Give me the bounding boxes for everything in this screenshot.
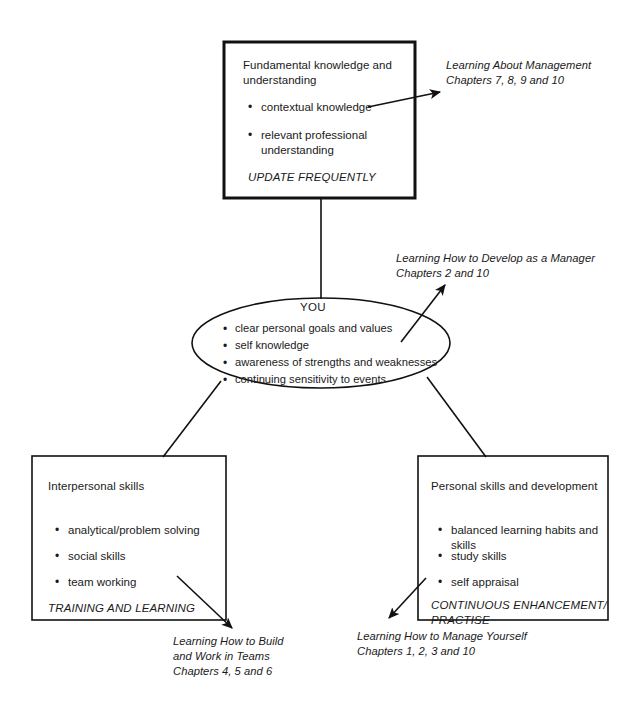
bullet-dot-icon: •	[223, 355, 235, 372]
fundamental-bullet-2: • relevant professional understanding	[248, 128, 413, 158]
interpersonal-bullet-2-text: social skills	[68, 549, 126, 564]
bullet-dot-icon: •	[223, 338, 235, 355]
connector-you-to-interpersonal	[163, 381, 221, 457]
you-bullet-list: • clear personal goals and values • self…	[223, 321, 437, 389]
diagram-canvas: Fundamental knowledge and understanding …	[0, 0, 641, 701]
you-bullet-1: • clear personal goals and values	[223, 321, 437, 338]
interpersonal-bullet-2: • social skills	[55, 549, 220, 565]
you-bullet-4: • continuing sensitivity to events	[223, 372, 437, 389]
fundamental-bullet-1: • contextual knowledge	[248, 100, 413, 116]
fundamental-heading: Fundamental knowledge and understanding	[243, 58, 413, 88]
bullet-dot-icon: •	[438, 523, 451, 539]
bullet-dot-icon: •	[223, 321, 235, 338]
you-label: YOU	[300, 300, 326, 315]
bullet-dot-icon: •	[248, 128, 261, 144]
bullet-dot-icon: •	[438, 575, 451, 591]
fundamental-emphasis: UPDATE FREQUENTLY	[248, 170, 376, 185]
interpersonal-emphasis: TRAINING AND LEARNING	[48, 601, 195, 616]
personal-bullet-2: • study skills	[438, 549, 613, 565]
bullet-dot-icon: •	[55, 549, 68, 565]
bullet-dot-icon: •	[55, 575, 68, 591]
you-bullet-2: • self knowledge	[223, 338, 437, 355]
personal-bullet-3: • self appraisal	[438, 575, 613, 591]
interpersonal-bullet-3: • team working	[55, 575, 220, 591]
you-bullet-3: • awareness of strengths and weaknesses	[223, 355, 437, 372]
you-bullet-2-text: self knowledge	[235, 338, 309, 354]
bullet-dot-icon: •	[438, 549, 451, 565]
fundamental-bullet-1-text: contextual knowledge	[261, 100, 372, 115]
personal-heading: Personal skills and development	[431, 479, 597, 494]
you-bullet-4-text: continuing sensitivity to events	[235, 372, 386, 388]
caption-manage-yourself: Learning How to Manage Yourself Chapters…	[357, 629, 577, 659]
interpersonal-heading: Interpersonal skills	[48, 479, 144, 494]
caption-about-management: Learning About Management Chapters 7, 8,…	[446, 58, 636, 88]
you-bullet-3-text: awareness of strengths and weaknesses	[235, 355, 437, 371]
personal-bullet-3-text: self appraisal	[451, 575, 519, 590]
caption-build-and-work-in-teams: Learning How to Build and Work in Teams …	[173, 634, 353, 680]
bullet-dot-icon: •	[248, 100, 261, 116]
personal-bullet-2-text: study skills	[451, 549, 507, 564]
interpersonal-bullet-3-text: team working	[68, 575, 136, 590]
caption-develop-as-manager: Learning How to Develop as a Manager Cha…	[396, 251, 626, 281]
interpersonal-bullet-1-text: analytical/problem solving	[68, 523, 200, 538]
bullet-dot-icon: •	[223, 372, 235, 389]
interpersonal-bullet-1: • analytical/problem solving	[55, 523, 220, 539]
you-bullet-1-text: clear personal goals and values	[235, 321, 392, 337]
personal-emphasis: CONTINUOUS ENHANCEMENT/ PRACTISE	[431, 598, 611, 628]
bullet-dot-icon: •	[55, 523, 68, 539]
fundamental-bullet-2-text: relevant professional understanding	[261, 128, 367, 158]
